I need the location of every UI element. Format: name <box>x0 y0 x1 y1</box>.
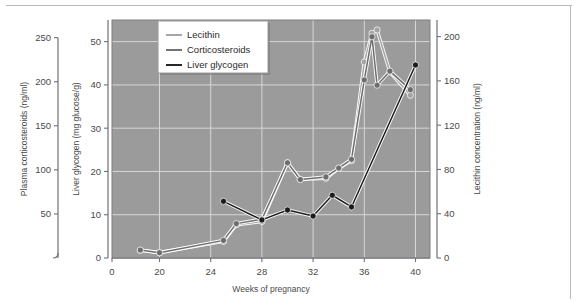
y-axis-inner-tick-label: 20 <box>90 166 101 177</box>
y-axis-outer-title: Plasma corticosteroids (ng/ml) <box>19 82 29 196</box>
data-point <box>407 87 413 93</box>
y-axis-plasma-corticosteroids: 50100150200250Plasma corticosteroids (ng… <box>19 32 58 258</box>
data-point <box>361 77 367 83</box>
x-axis: 0202428323640Weeks of pregnancy <box>109 258 430 294</box>
data-point <box>348 204 354 210</box>
legend-label-lecithin: Lecithin <box>187 29 220 40</box>
data-point <box>387 68 393 74</box>
y-axis-inner-tick-label: 0 <box>96 252 101 263</box>
y-axis-right-title: Lecithin concentration (ng/ml) <box>472 83 482 195</box>
data-point <box>297 176 303 182</box>
legend-label-liver-glycogen: Liver glycogen <box>187 59 248 70</box>
y-axis-outer-tick-label: 150 <box>35 120 51 131</box>
x-axis-tick-label: 28 <box>257 266 268 277</box>
data-point <box>137 247 143 253</box>
y-axis-right-tick-label: 40 <box>444 208 455 219</box>
y-axis-right-tick-label: 200 <box>444 31 460 42</box>
line-chart: 0202428323640Weeks of pregnancy010203040… <box>0 0 587 301</box>
data-point <box>233 221 239 227</box>
data-point <box>220 198 226 204</box>
y-axis-right-tick-label: 80 <box>444 164 455 175</box>
y-axis-outer-tick-label: 50 <box>40 208 51 219</box>
data-point <box>412 62 418 68</box>
data-point <box>284 160 290 166</box>
y-axis-inner-tick-label: 50 <box>90 36 101 47</box>
data-point <box>374 27 380 33</box>
legend-label-corticosteroids: Corticosteroids <box>187 44 251 55</box>
frame-top-border <box>6 5 572 6</box>
data-point <box>369 34 375 40</box>
frame-right-border <box>570 5 571 299</box>
y-axis-right-tick-label: 160 <box>444 75 460 86</box>
y-axis-outer-tick-label: 200 <box>35 76 51 87</box>
y-axis-outer-tick-label: 250 <box>35 32 51 43</box>
data-point <box>310 213 316 219</box>
data-point <box>220 237 226 243</box>
data-point <box>284 207 290 213</box>
x-axis-tick-label: 36 <box>359 266 370 277</box>
y-axis-inner-tick-label: 30 <box>90 123 101 134</box>
y-axis-outer-corner <box>53 253 58 258</box>
x-axis-tick-label: 40 <box>410 266 421 277</box>
x-axis-tick-label: 20 <box>154 266 165 277</box>
data-point <box>336 165 342 171</box>
data-point <box>407 92 413 98</box>
data-point <box>348 156 354 162</box>
y-axis-outer-tick-label: 100 <box>35 164 51 175</box>
x-axis-title: Weeks of pregnancy <box>232 284 310 294</box>
x-axis-tick-label: 0 <box>109 266 114 277</box>
data-point <box>156 250 162 256</box>
y-axis-inner-title: Liver glycogen (mg glucose/g) <box>71 82 81 196</box>
y-axis-lecithin: 04080120160200Lecithin concentration (ng… <box>437 20 482 263</box>
x-axis-tick-label: 24 <box>205 266 216 277</box>
y-axis-inner-tick-label: 10 <box>90 209 101 220</box>
data-point <box>329 192 335 198</box>
x-axis-tick-label: 32 <box>308 266 319 277</box>
y-axis-liver-glycogen: 01020304050Liver glycogen (mg glucose/g) <box>71 20 108 263</box>
figure-root: 0202428323640Weeks of pregnancy010203040… <box>0 0 587 301</box>
data-point <box>259 217 265 223</box>
data-point <box>374 82 380 88</box>
y-axis-inner-tick-label: 40 <box>90 79 101 90</box>
data-point <box>323 174 329 180</box>
y-axis-right-tick-label: 120 <box>444 120 460 131</box>
legend: LecithinCorticosteroidsLiver glycogen <box>158 21 270 75</box>
y-axis-right-tick-label: 0 <box>444 252 449 263</box>
